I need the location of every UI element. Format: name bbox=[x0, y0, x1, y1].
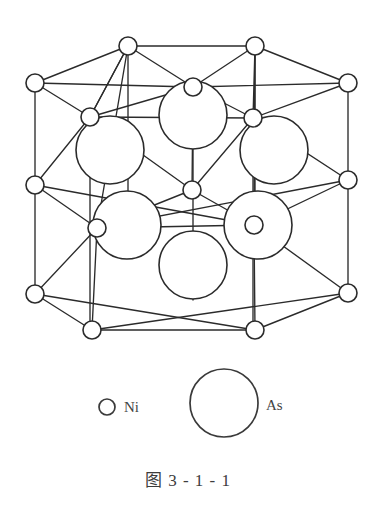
ni-atom bbox=[246, 321, 264, 339]
legend-as-label: As bbox=[266, 397, 283, 413]
ni-atom bbox=[339, 74, 357, 92]
ni-atom bbox=[81, 108, 99, 126]
bond-line bbox=[253, 83, 348, 118]
figure-page: Ni As 图 3 - 1 - 1 bbox=[0, 0, 376, 522]
bond-line bbox=[35, 46, 128, 83]
ni-atom bbox=[88, 219, 106, 237]
legend-ni-circle bbox=[99, 399, 115, 415]
ni-atom bbox=[246, 37, 264, 55]
as-atom bbox=[76, 116, 144, 184]
bond-line bbox=[35, 294, 255, 330]
bond-line bbox=[35, 228, 97, 294]
ni-atom bbox=[339, 284, 357, 302]
ni-atom bbox=[184, 78, 202, 96]
bond-line bbox=[35, 294, 92, 330]
ni-atom bbox=[26, 74, 44, 92]
ni-atom bbox=[26, 285, 44, 303]
bond-line bbox=[35, 185, 97, 228]
legend-ni-label: Ni bbox=[124, 399, 139, 415]
bond-line bbox=[193, 46, 255, 87]
ni-atom bbox=[83, 321, 101, 339]
ni-atom bbox=[244, 109, 262, 127]
ni-atom bbox=[339, 171, 357, 189]
ni-atom bbox=[26, 176, 44, 194]
bond-line bbox=[193, 83, 348, 87]
ni-atom bbox=[119, 37, 137, 55]
ni-atom bbox=[183, 181, 201, 199]
crystal-structure-figure: Ni As bbox=[0, 0, 376, 522]
as-atom bbox=[159, 231, 227, 299]
bond-line bbox=[255, 293, 348, 330]
bond-line bbox=[128, 46, 193, 87]
legend-as-circle bbox=[190, 369, 258, 437]
figure-caption: 图 3 - 1 - 1 bbox=[0, 466, 376, 491]
bond-line bbox=[35, 83, 193, 87]
ni-atom bbox=[245, 216, 263, 234]
legend: Ni As bbox=[99, 369, 283, 437]
bond-line bbox=[255, 46, 348, 83]
bond-line bbox=[92, 228, 97, 330]
